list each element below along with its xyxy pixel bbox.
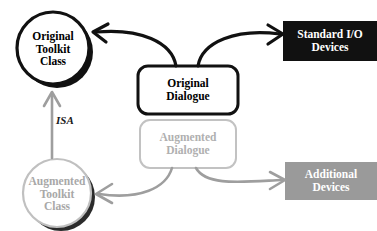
original-toolkit-class-circle[interactable] (17, 12, 89, 84)
standard-io-devices-box[interactable] (283, 21, 377, 61)
original-dialogue-box[interactable] (138, 66, 238, 114)
augmented-dialogue-box[interactable] (140, 120, 236, 168)
additional-devices-box[interactable] (285, 162, 377, 200)
edge-isa-inheritance (44, 92, 60, 158)
diagram-graphics (0, 0, 377, 231)
augmented-toolkit-class-circle[interactable] (23, 159, 91, 227)
edge-original-dialogue-to-original-toolkit (93, 24, 176, 66)
diagram-canvas: Original Toolkit Class Augmented Toolkit… (0, 0, 377, 231)
edge-original-dialogue-to-standard-io (198, 25, 283, 66)
edge-augmented-dialogue-to-additional-devices (196, 168, 285, 189)
edge-augmented-dialogue-to-augmented-toolkit (96, 168, 172, 203)
